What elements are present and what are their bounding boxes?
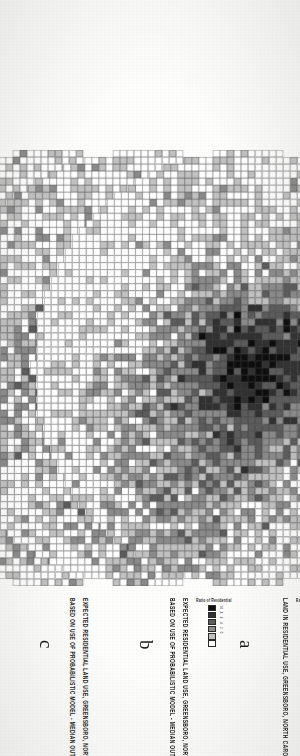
- map-a: [30, 150, 300, 586]
- panel-letter-c: c: [37, 640, 56, 648]
- caption-line-1-c: EXPECTED RESIDENTIAL LAND USE, GREENSBOR…: [79, 598, 92, 748]
- figure-page: Ratio of Residential 1.0.8.6.4.20 Series…: [0, 0, 300, 756]
- map-canvas-a: [30, 150, 300, 586]
- panel-letter-a: a: [237, 640, 256, 648]
- caption-line-2-b: BASED ON USE OF PROBABILISTIC MODEL - ME…: [167, 598, 180, 748]
- caption-line-2-c: BASED ON USE OF PROBABILISTIC MODEL - ME…: [67, 598, 80, 748]
- caption-line-1-a: LAND IN RESIDENTIAL USE, GREENSBORO, NOR…: [279, 598, 292, 748]
- caption-line-1-b: EXPECTED RESIDENTIAL LAND USE, GREENSBOR…: [179, 598, 192, 748]
- panel-a: Ratio of Residential 1.0.8.6.4.20 a LAND…: [200, 0, 300, 756]
- caption-c: EXPECTED RESIDENTIAL LAND USE, GREENSBOR…: [67, 598, 92, 748]
- caption-a: LAND IN RESIDENTIAL USE, GREENSBORO, NOR…: [279, 598, 292, 748]
- panel-letter-b: b: [137, 640, 156, 650]
- caption-b: EXPECTED RESIDENTIAL LAND USE, GREENSBOR…: [167, 598, 192, 748]
